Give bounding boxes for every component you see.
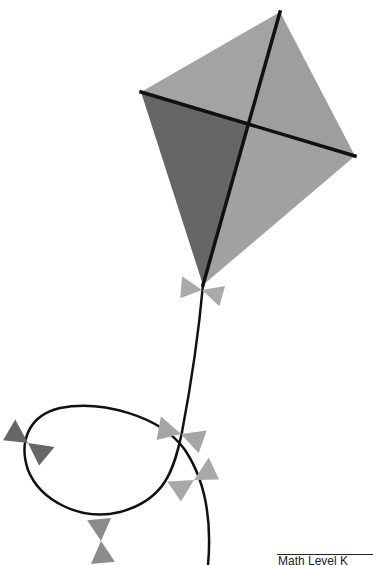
footer-label: Math Level K xyxy=(277,554,373,565)
bow-bottom xyxy=(87,518,115,564)
bow-left xyxy=(1,419,54,466)
kite-body xyxy=(141,12,355,285)
kite-string xyxy=(25,285,210,565)
